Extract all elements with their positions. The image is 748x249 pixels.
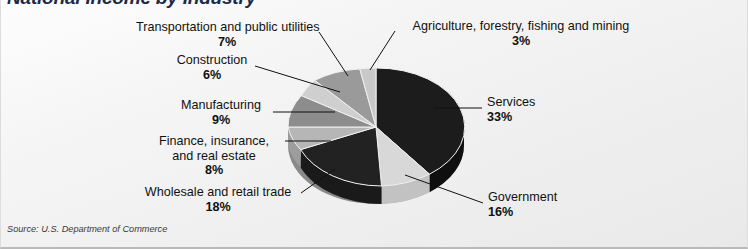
label-government: Government 16% bbox=[488, 190, 557, 219]
label-transportation-public-utilities: Transportation and public utilities 7% bbox=[136, 20, 318, 49]
label-agriculture-pct: 3% bbox=[397, 34, 645, 49]
label-construction-pct: 6% bbox=[169, 68, 255, 83]
label-construction: Construction 6% bbox=[169, 53, 255, 82]
label-wholesale-name: Wholesale and retail trade bbox=[145, 185, 291, 199]
source-note: Source: U.S. Department of Commerce bbox=[7, 224, 167, 234]
label-government-pct: 16% bbox=[488, 205, 557, 220]
label-finance-line2: and real estate bbox=[172, 149, 255, 163]
label-services-pct: 33% bbox=[487, 110, 535, 125]
leader-transportation bbox=[319, 32, 348, 76]
label-agriculture-name: Agriculture, forestry, fishing and minin… bbox=[413, 19, 630, 33]
label-wholesale-retail-trade: Wholesale and retail trade 18% bbox=[134, 185, 302, 214]
label-services: Services 33% bbox=[487, 95, 535, 124]
label-transportation-name: Transportation and public utilities bbox=[136, 20, 320, 34]
label-transportation-pct: 7% bbox=[136, 35, 318, 50]
label-manufacturing-pct: 9% bbox=[171, 113, 271, 128]
pie-chart-figure: National Income by Industry bbox=[0, 0, 748, 249]
label-agriculture-forestry-fishing-mining: Agriculture, forestry, fishing and minin… bbox=[397, 19, 645, 48]
leader-agriculture bbox=[370, 31, 395, 70]
label-construction-name: Construction bbox=[177, 53, 248, 67]
label-services-name: Services bbox=[487, 95, 535, 109]
label-government-name: Government bbox=[488, 190, 557, 204]
label-wholesale-pct: 18% bbox=[134, 200, 302, 215]
label-finance-line1: Finance, insurance, bbox=[159, 134, 269, 148]
label-finance-pct: 8% bbox=[143, 163, 285, 178]
label-manufacturing: Manufacturing 9% bbox=[171, 98, 271, 127]
label-finance-insurance-real-estate: Finance, insurance, and real estate 8% bbox=[143, 134, 285, 178]
label-manufacturing-name: Manufacturing bbox=[181, 98, 261, 112]
